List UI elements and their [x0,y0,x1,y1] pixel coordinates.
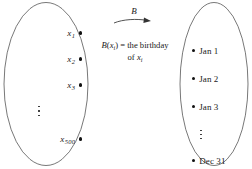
domain-item-label: x3 [67,80,75,90]
domain-item-label: x500 [60,134,75,144]
domain-item-label: x1 [67,28,75,38]
list-item: Jan 3 [192,100,252,113]
mapping-description-line2: of xi [86,52,184,64]
bullet-dot-icon [192,105,195,108]
mapping-description-line1: B(xi) = the birthday [86,40,184,52]
list-item: Dec 31 [192,154,252,167]
bullet-dot-icon [192,49,195,52]
bullet-dot-icon [192,159,195,162]
domain-item-list: x1 x2 x3 x500 [10,26,82,158]
codomain-item-list: Jan 1 Jan 2 Jan 3 Dec 31 [192,44,252,169]
codomain-item-label: Jan 1 [199,46,218,56]
birthday-mapping-figure: x1 x2 x3 x500 B B(xi) = the birthday of … [0,0,252,169]
arrow-label: B [108,6,160,16]
list-item: Jan 2 [192,72,252,85]
list-item: x500 [10,132,82,146]
bullet-dot-icon [79,137,82,140]
codomain-item-label: Dec 31 [199,156,225,166]
list-item: x2 [10,52,82,66]
bullet-dot-icon [79,83,82,86]
domain-item-label: x2 [67,54,75,64]
bullet-dot-icon [192,77,195,80]
arrow-right-icon [113,17,155,26]
list-item: Jan 1 [192,44,252,57]
vertical-ellipsis-icon [192,128,206,141]
codomain-item-label: Jan 3 [199,102,218,112]
bullet-dot-icon [79,31,82,34]
list-item: x1 [10,26,82,40]
vertical-ellipsis-icon [10,104,82,120]
list-item: x3 [10,78,82,92]
mapping-arrow-group: B [108,6,160,26]
codomain-item-label: Jan 2 [199,74,218,84]
bullet-dot-icon [79,57,82,60]
mapping-description: B(xi) = the birthday of xi [86,40,184,63]
